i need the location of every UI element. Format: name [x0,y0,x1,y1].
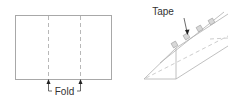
tape-piece [183,33,190,40]
fold-callout: Fold [47,79,83,97]
fold-label: Fold [55,86,74,97]
tape-label: Tape [152,6,174,17]
tape-callout: Tape [152,6,189,35]
sheet-outline [16,16,112,80]
prism-end-face [144,48,176,79]
flat-sheet [16,16,112,80]
tape-piece [171,41,178,48]
triangular-prism [144,12,228,79]
diagram-canvas: Fold Tape [0,0,228,103]
